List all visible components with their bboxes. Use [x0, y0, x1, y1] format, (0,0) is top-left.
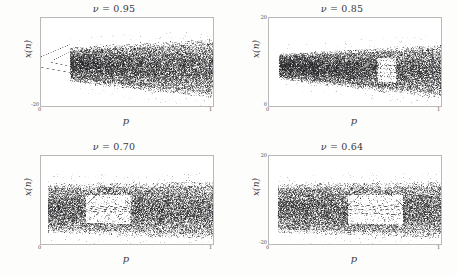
x-tick-left: 0 — [38, 245, 41, 250]
x-tick-right: 1 — [437, 107, 440, 112]
nu-symbol: ν — [93, 141, 99, 152]
panel-nu-0-64: ν = 0.64 20 -20 x(n) 0 1 p — [228, 138, 456, 276]
panel-nu-0-95: ν = 0.95 -20 x(n) 0 1 p — [0, 0, 228, 138]
x-axis-label: p — [40, 253, 212, 264]
nu-symbol: ν — [321, 3, 327, 14]
y-tick-top: 20 — [261, 153, 267, 158]
panel-title: ν = 0.64 — [228, 141, 456, 152]
nu-value-expr: = 0.95 — [102, 3, 135, 14]
panel-title: ν = 0.85 — [228, 3, 456, 14]
nu-value-expr: = 0.70 — [102, 141, 135, 152]
nu-symbol: ν — [93, 3, 99, 14]
x-axis-label: p — [268, 115, 440, 126]
x-tick-left: 0 — [266, 245, 269, 250]
plot-area — [268, 155, 442, 245]
y-axis-label: x(n) — [251, 167, 261, 207]
nu-value-expr: = 0.64 — [330, 141, 363, 152]
figure-bifurcation-grid: ν = 0.95 -20 x(n) 0 1 p ν = 0.85 20 0 x(… — [0, 0, 457, 276]
plot-area — [40, 17, 214, 107]
x-tick-left: 0 — [38, 107, 41, 112]
nu-value-expr: = 0.85 — [330, 3, 363, 14]
panel-nu-0-70: ν = 0.70 x(n) 0 1 p — [0, 138, 228, 276]
y-axis-label: x(n) — [23, 167, 33, 207]
scatter-canvas — [269, 156, 441, 244]
plot-area — [40, 155, 214, 245]
x-tick-right: 1 — [209, 107, 212, 112]
y-axis-label: x(n) — [251, 29, 261, 69]
plot-area — [268, 17, 442, 107]
scatter-canvas — [41, 18, 213, 106]
x-tick-left: 0 — [266, 107, 269, 112]
y-tick-top: 20 — [261, 15, 267, 20]
nu-symbol: ν — [321, 141, 327, 152]
x-tick-right: 1 — [437, 245, 440, 250]
scatter-canvas — [269, 18, 441, 106]
x-axis-label: p — [40, 115, 212, 126]
scatter-canvas — [41, 156, 213, 244]
panel-nu-0-85: ν = 0.85 20 0 x(n) 0 1 p — [228, 0, 456, 138]
x-axis-label: p — [268, 253, 440, 264]
panel-title: ν = 0.95 — [0, 3, 228, 14]
panel-title: ν = 0.70 — [0, 141, 228, 152]
y-axis-label: x(n) — [23, 29, 33, 69]
x-tick-right: 1 — [209, 245, 212, 250]
